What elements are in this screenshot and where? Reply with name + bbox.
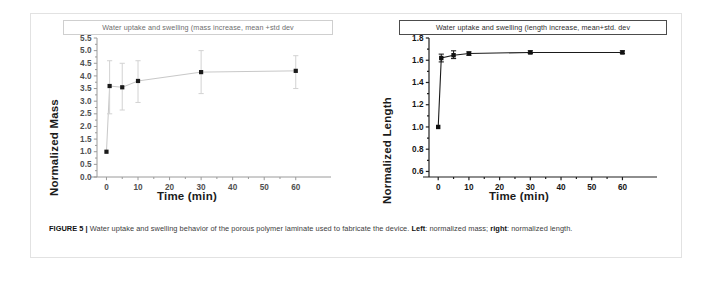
y-tick-label: 4.0	[80, 72, 92, 81]
data-point-marker	[467, 51, 471, 55]
y-tick-label: 4.5	[80, 59, 92, 68]
y-tick-label: 1.4	[412, 78, 424, 87]
data-point-marker	[104, 150, 108, 154]
caption-figure-number: FIGURE 5	[49, 224, 83, 233]
data-point-marker	[436, 125, 440, 129]
figure-caption: FIGURE 5 | Water uptake and swelling beh…	[49, 223, 669, 234]
caption-text-primary: Water uptake and swelling behavior of th…	[90, 224, 410, 233]
y-tick-label: 2.5	[80, 109, 92, 118]
y-tick-label: 1.0	[412, 123, 424, 132]
plot-area-left: 0.00.51.01.52.02.53.03.54.04.55.05.50102…	[39, 14, 359, 212]
data-point-marker	[294, 69, 298, 73]
y-tick-label: 1.5	[80, 135, 92, 144]
caption-text-mass: : normalized mass;	[425, 224, 488, 233]
x-tick-label: 30	[526, 183, 536, 192]
x-tick-label: 10	[133, 183, 143, 192]
x-tick-label: 20	[495, 183, 505, 192]
caption-bold-right: right	[490, 224, 507, 233]
y-tick-label: 1.6	[412, 56, 424, 65]
x-tick-label: 20	[165, 183, 175, 192]
x-tick-label: 0	[436, 183, 441, 192]
x-tick-label: 50	[260, 183, 270, 192]
y-tick-label: 1.0	[80, 147, 92, 156]
series-line	[438, 52, 622, 127]
figure-panels: Water uptake and swelling (mass increase…	[31, 14, 681, 212]
x-tick-label: 50	[587, 183, 597, 192]
data-point-marker	[439, 56, 443, 60]
x-tick-label: 0	[104, 183, 109, 192]
data-point-marker	[199, 70, 203, 74]
x-tick-label: 60	[618, 183, 628, 192]
data-point-marker	[136, 79, 140, 83]
x-tick-label: 10	[464, 183, 474, 192]
caption-bold-left: Left	[412, 224, 426, 233]
y-tick-label: 1.2	[412, 100, 424, 109]
x-tick-label: 60	[291, 183, 301, 192]
data-point-marker	[528, 50, 532, 54]
y-tick-label: 5.0	[80, 46, 92, 55]
y-tick-label: 0.8	[412, 145, 424, 154]
data-point-marker	[620, 50, 624, 54]
data-point-marker	[451, 53, 455, 57]
y-tick-label: 0.5	[80, 160, 92, 169]
plot-area-right: 0.60.81.01.21.41.61.80102030405060	[369, 14, 679, 212]
data-point-marker	[108, 84, 112, 88]
chart-panel-normalized-mass: Water uptake and swelling (mass increase…	[39, 14, 359, 212]
y-tick-label: 5.5	[80, 34, 92, 43]
y-tick-label: 3.5	[80, 84, 92, 93]
x-tick-label: 40	[556, 183, 566, 192]
y-tick-label: 1.8	[412, 34, 424, 43]
y-tick-label: 3.0	[80, 97, 92, 106]
figure-frame: Water uptake and swelling (mass increase…	[30, 13, 682, 258]
x-tick-label: 30	[197, 183, 207, 192]
data-point-marker	[120, 85, 124, 89]
caption-text-length: : normalized length.	[507, 224, 573, 233]
chart-panel-normalized-length: Water uptake and swelling (length increa…	[369, 14, 679, 212]
x-tick-label: 40	[228, 183, 238, 192]
y-tick-label: 2.0	[80, 122, 92, 131]
y-tick-label: 0.6	[412, 167, 424, 176]
y-tick-label: 0.0	[80, 173, 92, 182]
